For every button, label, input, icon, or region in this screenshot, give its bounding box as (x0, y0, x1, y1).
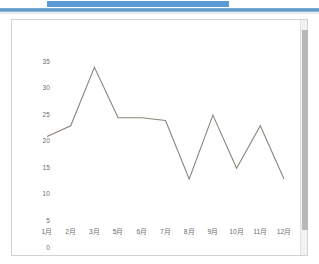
x-axis-tick-label: 3月 (89, 229, 100, 236)
x-axis-tick-label: 9月 (208, 229, 219, 236)
x-axis-tick-label: 5月 (113, 229, 124, 236)
chart-plot-svg (12, 20, 302, 255)
line-chart: 05101520253035 1月2月3月5月6月7月8月9月10月11月12月 (12, 20, 302, 255)
vertical-scrollbar[interactable] (300, 20, 307, 255)
x-axis: 1月2月3月5月6月7月8月9月10月11月12月 (12, 229, 302, 249)
active-tab-chip[interactable] (47, 1, 229, 7)
top-bar (0, 0, 319, 18)
x-axis-tick-label: 8月 (184, 229, 195, 236)
x-axis-tick-label: 2月 (65, 229, 76, 236)
x-axis-tick-label: 10月 (229, 229, 244, 236)
x-axis-tick-label: 12月 (277, 229, 292, 236)
data-series-line (47, 67, 284, 179)
x-axis-tick-label: 7月 (160, 229, 171, 236)
top-rule-shadow (0, 12, 319, 14)
chart-panel: 05101520253035 1月2月3月5月6月7月8月9月10月11月12月 (11, 19, 308, 256)
x-axis-tick-label: 1月 (42, 229, 53, 236)
x-axis-tick-label: 11月 (253, 229, 267, 236)
x-axis-tick-label: 6月 (136, 229, 147, 236)
scrollbar-thumb[interactable] (302, 30, 308, 230)
